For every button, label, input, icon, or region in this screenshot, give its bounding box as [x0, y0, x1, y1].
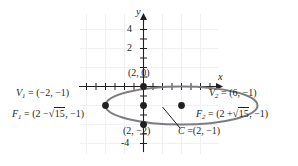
focus-1-close: , −1) — [65, 108, 84, 119]
x-axis-label: x — [218, 72, 223, 83]
focus-1-open: = (2 − — [22, 108, 49, 119]
point-top-label: (2, 0) — [128, 68, 150, 78]
focus-1-radical: √15 — [49, 109, 66, 119]
focus-2-radicand: 15 — [238, 107, 249, 119]
vertex-1-value: = (−2, −1) — [26, 87, 70, 98]
center-symbol: C — [178, 125, 185, 136]
point-center — [140, 102, 147, 109]
y-tick-label-2: 2 — [127, 43, 132, 53]
vertex-2-label: V2 = (6, −1) — [209, 88, 256, 100]
vertex-1-label: V1 = (−2, −1) — [16, 88, 69, 100]
point-top — [140, 83, 147, 90]
focus-2-radical: √15 — [233, 109, 250, 119]
point-bottom-label: (2, −2) — [123, 126, 150, 136]
vertex-2-value: = (6, −1) — [219, 87, 257, 98]
y-axis-label: y — [136, 7, 141, 18]
focus-2-label: F2 = (2 +√15, −1) — [196, 109, 268, 121]
point-v1 — [102, 102, 109, 109]
focus-2-close: , −1) — [249, 108, 268, 119]
center-value: =(2, −1) — [185, 125, 220, 136]
y-tick-label-neg4: -4 — [121, 138, 129, 148]
ellipse-figure — [0, 0, 298, 166]
y-tick-label-4: 4 — [127, 24, 132, 34]
focus-1-radicand: 15 — [54, 107, 65, 119]
center-label: C =(2, −1) — [178, 126, 220, 136]
point-v2 — [178, 102, 185, 109]
focus-2-open: = (2 + — [206, 108, 233, 119]
focus-1-label: F1 = (2 −√15, −1) — [12, 109, 84, 121]
